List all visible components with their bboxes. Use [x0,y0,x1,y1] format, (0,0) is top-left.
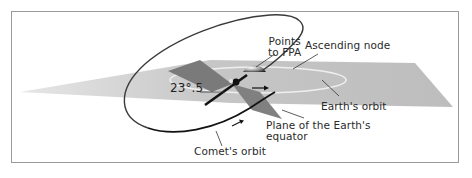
comet-motion-arrow [232,122,240,126]
label-earths-orbit: Earth's orbit [321,101,387,112]
label-plane-of-equator: Plane of the Earth's equator [266,120,371,142]
label-points-to-fpa: Points to FPA [268,36,301,58]
label-inclination-angle: 23°.5 [170,83,203,94]
leader-plane-equator [282,110,304,118]
label-ascending-node: Ascending node [305,40,390,51]
label-points-to-fpa-line2: to FPA [268,47,301,58]
label-comets-orbit: Comet's orbit [194,146,266,157]
leader-comets-orbit [216,131,222,146]
earth-highlight [229,79,233,83]
earth [233,79,240,86]
label-plane-equator-line2: equator [266,131,371,142]
